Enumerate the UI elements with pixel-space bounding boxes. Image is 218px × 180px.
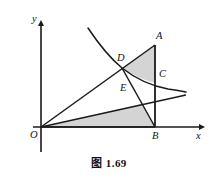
point-label-origin: O xyxy=(30,130,38,141)
figure-caption: 图 1.69 xyxy=(0,154,218,170)
geometry-canvas xyxy=(0,0,218,180)
coordinate-axes xyxy=(33,20,205,152)
x-axis-label: x xyxy=(196,131,201,142)
point-label-d: D xyxy=(117,53,125,64)
point-label-b: B xyxy=(152,131,158,142)
point-label-a: A xyxy=(156,31,162,42)
figure-container: y x A B C D E O 图 1.69 xyxy=(0,0,218,180)
y-axis-label: y xyxy=(32,14,37,25)
point-label-c: C xyxy=(159,69,166,80)
y-axis-arrowhead xyxy=(38,20,44,26)
point-label-e: E xyxy=(120,83,126,94)
